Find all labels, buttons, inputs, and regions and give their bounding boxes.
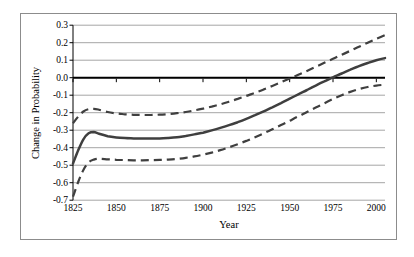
x-axis-title: Year: [189, 218, 269, 231]
y-tick-label: -0.5: [40, 159, 68, 171]
y-axis-title: Change in Probability: [29, 38, 43, 188]
y-tick-label: -0.6: [40, 177, 68, 189]
y-tick-label: -0.1: [40, 89, 68, 101]
y-tick-label: 0.1: [40, 54, 68, 66]
chart-figure: 0.30.20.10.0-0.1-0.2-0.3-0.4-0.5-0.6-0.7…: [0, 0, 414, 257]
y-tick-label: 0.3: [40, 19, 68, 31]
x-tick-label: 2000: [348, 202, 404, 214]
y-axis-ticks: [70, 25, 74, 200]
y-tick-label: 0.0: [40, 72, 68, 84]
upper-confidence-line: [73, 35, 385, 123]
y-tick-label: 0.2: [40, 37, 68, 49]
y-tick-label: -0.4: [40, 142, 68, 154]
y-tick-label: -0.3: [40, 124, 68, 136]
y-tick-label: -0.2: [40, 107, 68, 119]
